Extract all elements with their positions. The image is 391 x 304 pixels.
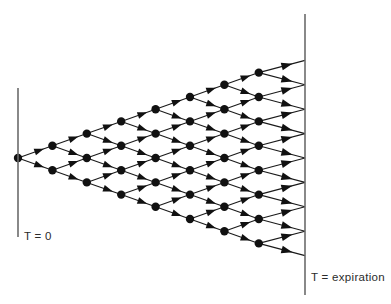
branch-arrowhead: [240, 198, 250, 205]
branch-arrowhead: [171, 185, 181, 192]
branch-arrowhead: [206, 210, 216, 217]
tree-node: [255, 215, 263, 223]
branch-arrowhead: [240, 210, 250, 217]
tree-node: [151, 178, 159, 186]
branch-arrowhead: [206, 100, 216, 107]
branch-arrowhead: [171, 161, 181, 168]
expiration-axis-label: T = expiration: [311, 271, 385, 283]
branch-arrowhead: [137, 149, 147, 156]
tree-node: [186, 117, 194, 125]
branch-arrowhead: [206, 173, 216, 180]
branch-arrowhead: [171, 136, 181, 143]
tree-node: [151, 129, 159, 137]
arrowhead-group: [34, 63, 293, 253]
branch-arrowhead: [68, 137, 78, 144]
branch-arrowhead: [240, 76, 250, 83]
branch-arrowhead: [171, 173, 181, 180]
branch-arrowhead: [34, 149, 44, 156]
branch-arrowhead: [240, 173, 250, 180]
branch-arrowhead: [206, 112, 216, 119]
branch-arrowhead: [281, 172, 293, 180]
tree-node: [83, 129, 91, 137]
tree-node: [255, 142, 263, 150]
tree-node: [255, 117, 263, 125]
branch-arrowhead: [137, 185, 147, 192]
branch-arrowhead: [171, 112, 181, 119]
branch-arrowhead: [171, 149, 181, 156]
tree-node: [220, 129, 228, 137]
branch-arrowhead: [281, 160, 293, 168]
branch-arrowhead: [102, 173, 112, 180]
tree-node: [117, 117, 125, 125]
branch-arrowhead: [281, 209, 293, 217]
branch-arrowhead: [281, 185, 293, 193]
branch-arrowhead: [137, 161, 147, 168]
tree-node: [220, 227, 228, 235]
branch-arrowhead: [68, 149, 78, 156]
tree-node: [255, 93, 263, 101]
branch-arrowhead: [240, 112, 250, 119]
branch-arrowhead: [137, 124, 147, 131]
branch-arrowhead: [240, 100, 250, 107]
branch-arrowhead: [68, 173, 78, 180]
branch-arrowhead: [281, 246, 293, 254]
branch-arrowhead: [102, 136, 112, 143]
branch-arrowhead: [137, 197, 147, 204]
lattice-svg: T = 0 T = expiration: [0, 0, 391, 304]
branch-arrowhead: [137, 137, 147, 144]
branch-arrowhead: [281, 221, 293, 229]
branch-arrowhead: [240, 124, 250, 131]
branch-arrowhead: [206, 88, 216, 95]
tree-node: [83, 178, 91, 186]
branch-arrowhead: [102, 124, 112, 131]
branch-arrowhead: [206, 149, 216, 156]
branch-arrowhead: [206, 185, 216, 192]
branch-arrowhead: [137, 173, 147, 180]
tree-node: [117, 142, 125, 150]
branch-arrowhead: [240, 88, 250, 95]
tree-node: [255, 190, 263, 198]
tree-node: [220, 178, 228, 186]
branch-arrowhead: [281, 148, 293, 156]
branch-arrowhead: [281, 87, 293, 95]
tree-node: [186, 190, 194, 198]
tree-node: [220, 154, 228, 162]
tree-node: [151, 203, 159, 211]
start-axis-label: T = 0: [24, 230, 52, 242]
tree-node: [48, 166, 56, 174]
branch-arrowhead: [281, 63, 293, 71]
branch-arrowhead: [171, 198, 181, 205]
tree-node: [255, 239, 263, 247]
branch-arrowhead: [171, 210, 181, 217]
tree-node: [117, 190, 125, 198]
branch-arrowhead: [281, 234, 293, 242]
branch-arrowhead: [240, 161, 250, 168]
tree-node: [220, 105, 228, 113]
branch-arrowhead: [281, 136, 293, 144]
branch-arrowhead: [34, 161, 44, 168]
tree-node: [48, 142, 56, 150]
tree-node: [186, 166, 194, 174]
tree-node: [186, 142, 194, 150]
branch-arrowhead: [240, 136, 250, 143]
branch-arrowhead: [171, 124, 181, 131]
branch-arrowhead: [171, 100, 181, 107]
binomial-tree-diagram: T = 0 T = expiration: [0, 0, 391, 304]
node-group: [14, 68, 263, 247]
branch-arrowhead: [240, 185, 250, 192]
tree-node: [83, 154, 91, 162]
branch-arrowhead: [281, 99, 293, 107]
tree-node: [151, 105, 159, 113]
branch-arrowhead: [281, 112, 293, 120]
branch-arrowhead: [68, 161, 78, 168]
branch-arrowhead: [102, 185, 112, 192]
branch-arrowhead: [281, 197, 293, 205]
branch-arrowhead: [240, 234, 250, 241]
branch-arrowhead: [206, 161, 216, 168]
branch-arrowhead: [281, 124, 293, 132]
branch-group: [18, 60, 305, 255]
branch-arrowhead: [206, 222, 216, 229]
tree-node: [255, 68, 263, 76]
branch-arrowhead: [206, 124, 216, 131]
branch-arrowhead: [240, 222, 250, 229]
